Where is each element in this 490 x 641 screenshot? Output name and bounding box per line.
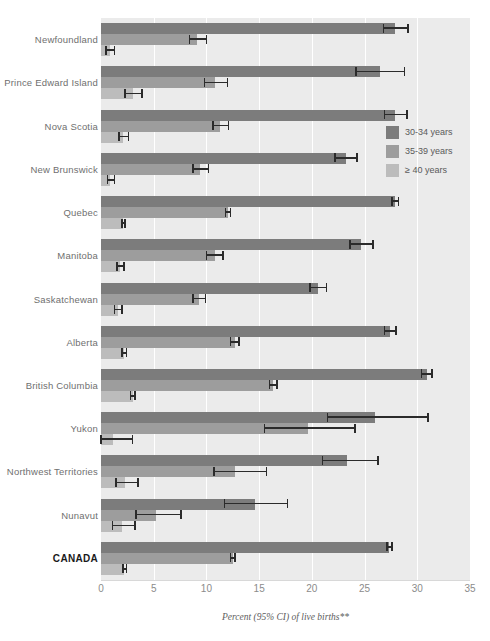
error-bar-cap <box>121 305 123 314</box>
chart-legend: 30-34 years35-39 years≥ 40 years <box>386 124 486 181</box>
y-axis-label: Prince Edward Island <box>0 77 98 88</box>
bar <box>101 121 220 132</box>
bar <box>101 391 133 402</box>
legend-swatch-icon <box>386 126 399 139</box>
error-bar-line <box>204 82 227 84</box>
legend-swatch-icon <box>386 145 399 158</box>
legend-swatch-icon <box>386 164 399 177</box>
error-bar-cap <box>116 262 118 271</box>
error-bar-cap <box>114 46 116 55</box>
y-axis-label: Nunavut <box>0 510 98 521</box>
error-bar-cap <box>115 478 117 487</box>
error-bar-cap <box>264 424 266 433</box>
error-bar-line <box>214 471 267 473</box>
bar <box>101 218 123 229</box>
bar-group <box>101 23 470 56</box>
gridline <box>470 18 471 580</box>
error-bar-cap <box>269 380 271 389</box>
error-bar-cap <box>134 391 136 400</box>
error-bar-cap <box>230 553 232 562</box>
error-bar-cap <box>349 240 351 249</box>
error-bar-cap <box>204 78 206 87</box>
error-bar-line <box>322 460 378 462</box>
plot-area <box>101 18 470 580</box>
error-bar-cap <box>287 499 289 508</box>
error-bar-line <box>113 525 135 527</box>
error-bar-cap <box>112 521 114 530</box>
error-bar-cap <box>124 89 126 98</box>
error-bar-cap <box>276 380 278 389</box>
error-bar-cap <box>225 208 227 217</box>
bar-group <box>101 455 470 488</box>
error-bar-line <box>136 514 181 516</box>
error-bar-cap <box>383 24 385 33</box>
error-bar-cap <box>105 46 107 55</box>
error-bar-line <box>116 482 138 484</box>
error-bar-cap <box>421 369 423 378</box>
error-bar-cap <box>384 110 386 119</box>
x-tick-label: 5 <box>151 583 157 594</box>
bar <box>101 164 200 175</box>
error-bar-cap <box>206 35 208 44</box>
bar <box>101 294 199 305</box>
error-bar-line <box>193 298 206 300</box>
bar-group <box>101 499 470 532</box>
bar-group <box>101 239 470 272</box>
error-bar-cap <box>114 305 116 314</box>
bar <box>101 250 215 261</box>
error-bar-line <box>206 254 223 256</box>
error-bar-cap <box>206 251 208 260</box>
error-bar-cap <box>407 24 409 33</box>
error-bar-line <box>213 125 229 127</box>
error-bar-line <box>356 71 404 73</box>
error-bar-cap <box>354 424 356 433</box>
y-axis-label: Quebec <box>0 207 98 218</box>
bar-group <box>101 66 470 99</box>
error-bar-cap <box>130 391 132 400</box>
error-bar-cap <box>121 348 123 357</box>
bar <box>101 380 273 391</box>
y-axis-label: Saskatchewan <box>0 294 98 305</box>
error-bar-cap <box>189 35 191 44</box>
legend-label: 30-34 years <box>405 127 453 137</box>
x-axis-ticks: 05101520253035 <box>101 583 470 603</box>
error-bar-cap <box>355 67 357 76</box>
bar <box>101 196 395 207</box>
error-bar-cap <box>431 369 433 378</box>
error-bar-line <box>328 416 428 418</box>
bar-group <box>101 412 470 445</box>
error-bar-cap <box>230 208 232 217</box>
error-bar-cap <box>137 478 139 487</box>
error-bar-cap <box>228 121 230 130</box>
bar <box>101 283 318 294</box>
error-bar-line <box>264 427 355 429</box>
error-bar-cap <box>126 348 128 357</box>
error-bar-cap <box>123 262 125 271</box>
error-bar-cap <box>135 510 137 519</box>
error-bar-cap <box>238 337 240 346</box>
x-axis-title: Percent (95% CI) of live births** <box>101 612 470 622</box>
bar-group <box>101 196 470 229</box>
error-bar-line <box>193 168 209 170</box>
error-bar-cap <box>372 240 374 249</box>
error-bar-line <box>224 503 287 505</box>
error-bar-cap <box>121 219 123 228</box>
error-bar-cap <box>134 521 136 530</box>
error-bar-cap <box>141 89 143 98</box>
error-bar-cap <box>192 164 194 173</box>
error-bar-cap <box>406 110 408 119</box>
error-bar-line <box>310 287 327 289</box>
bar <box>101 553 233 564</box>
error-bar-cap <box>126 564 128 573</box>
x-tick-label: 15 <box>254 583 265 594</box>
error-bar-cap <box>309 283 311 292</box>
legend-label: 35-39 years <box>405 146 453 156</box>
error-bar-cap <box>334 153 336 162</box>
error-bar-cap <box>234 553 236 562</box>
error-bar-line <box>350 243 373 245</box>
legend-item: ≥ 40 years <box>386 162 486 181</box>
x-tick-label: 10 <box>201 583 212 594</box>
error-bar-cap <box>213 467 215 476</box>
bar <box>101 77 215 88</box>
y-axis-category-labels: NewfoundlandPrince Edward IslandNova Sco… <box>0 18 98 580</box>
